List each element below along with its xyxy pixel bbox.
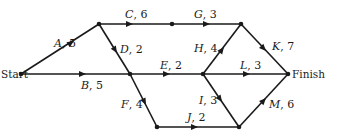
label-j: J, 2: [185, 111, 205, 124]
label-g: G, 3: [194, 8, 217, 21]
node-finish: [286, 72, 291, 77]
label-i: I, 3: [198, 94, 217, 107]
label-m: M, 6: [268, 98, 294, 111]
node-7: [237, 125, 242, 130]
node-4: [128, 72, 133, 77]
label-f: F, 4: [120, 98, 143, 111]
arrow-g-icon: [203, 21, 210, 27]
activity-network-diagram: Start Finish A, 5 B, 5 C, 6 D, 2 E, 2 F,…: [0, 0, 339, 139]
label-e: E, 2: [159, 59, 182, 72]
node-2: [170, 22, 175, 27]
label-l: L, 3: [239, 59, 261, 72]
arrow-j-icon: [191, 124, 198, 130]
node-6: [155, 125, 160, 130]
arrowheads: [66, 21, 268, 130]
label-h: H, 4: [193, 42, 218, 55]
label-k: K, 7: [271, 40, 294, 53]
label-b: B, 5: [80, 79, 103, 92]
start-label: Start: [1, 68, 29, 80]
node-1: [97, 22, 102, 27]
finish-label: Finish: [292, 68, 325, 80]
node-5: [201, 72, 206, 77]
node-3: [239, 22, 244, 27]
arrow-c-icon: [126, 21, 133, 27]
label-d: D, 2: [119, 43, 143, 56]
arrow-d-icon: [111, 45, 120, 54]
label-c: C, 6: [125, 8, 147, 21]
label-a: A, 5: [53, 37, 76, 50]
arrow-b-icon: [79, 71, 86, 77]
